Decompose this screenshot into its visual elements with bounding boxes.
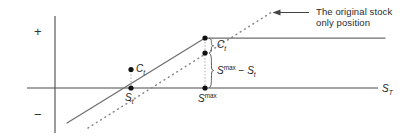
x-axis-label-base: S (382, 83, 389, 94)
payoff-diagram-figure: + − ST The original stock only position … (0, 0, 409, 139)
smax-minus-st-operator: − (236, 65, 247, 76)
original-stock-annotation: The original stock only position (316, 6, 392, 28)
x-axis-label-sub: T (389, 89, 393, 96)
smax-sup: max (205, 92, 217, 99)
smax-minus-st-sub2: t (254, 71, 256, 78)
smax-minus-st-sup: max (224, 64, 236, 71)
y-axis-negative-sign: − (34, 107, 42, 122)
annotation-line-2: only position (316, 17, 392, 28)
annotation-arrow-group (273, 10, 310, 16)
smax-axis-point (202, 85, 207, 90)
ct-brace-label: Ct (217, 39, 226, 53)
ct-lower-label: Ct (136, 63, 145, 77)
kink-point (202, 35, 207, 40)
smax-minus-st-brace-label: Smax − St (217, 64, 256, 79)
st-sub: t (132, 98, 134, 105)
x-axis-label: ST (382, 83, 393, 97)
ct-lower-sub: t (143, 69, 145, 76)
st-label: St (125, 92, 134, 106)
annotation-line-1: The original stock (316, 6, 392, 17)
annotation-arrow-head (273, 10, 281, 16)
st-axis-point (128, 85, 133, 90)
dotted-point (202, 50, 207, 55)
smax-minus-st-base2: S (247, 65, 254, 76)
smax-label: Smax (198, 92, 217, 105)
smax-minus-st-base1: S (217, 65, 224, 76)
st-base: S (125, 92, 132, 103)
smax-minus-st-brace (210, 54, 214, 88)
ct-brace-sub: t (224, 45, 226, 52)
y-axis-positive-sign: + (34, 24, 42, 39)
smax-base: S (198, 93, 205, 104)
ct-lower-point (128, 67, 133, 72)
